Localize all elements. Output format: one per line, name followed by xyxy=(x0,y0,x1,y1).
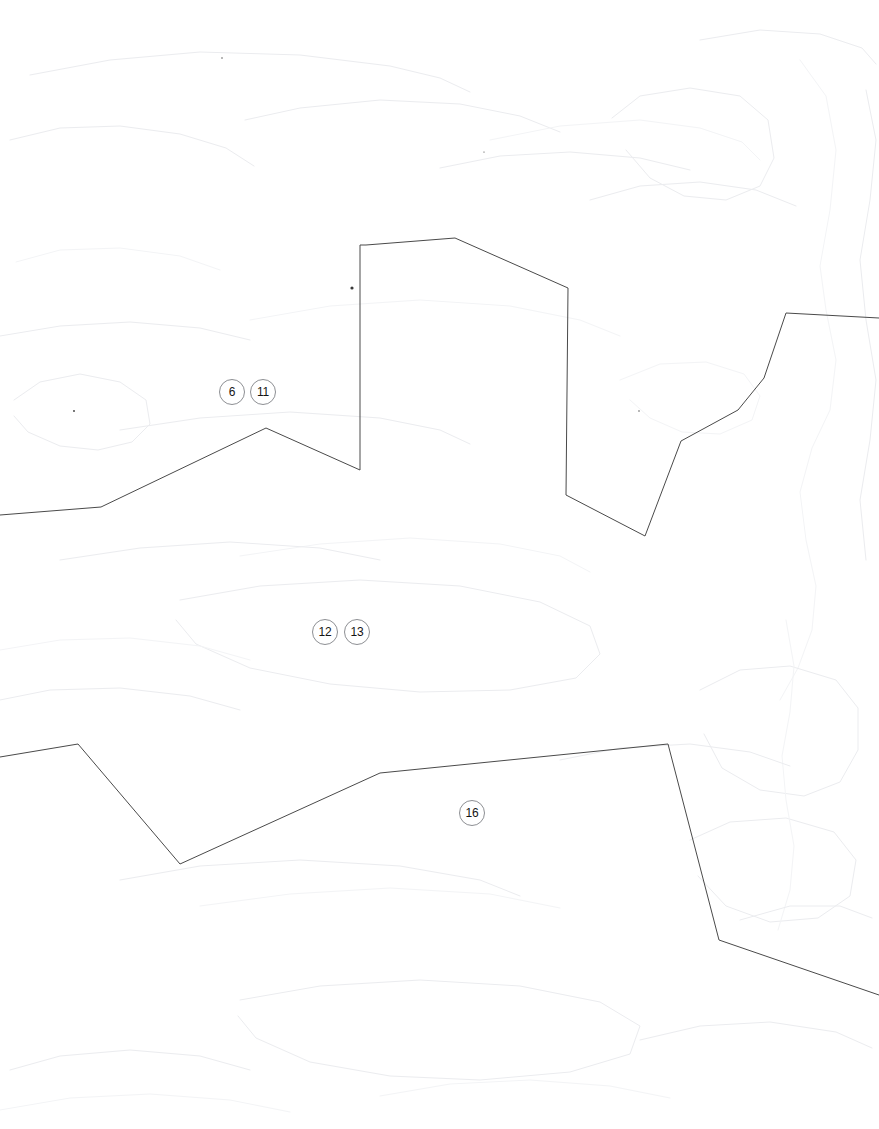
map-marker-label: 12 xyxy=(319,626,332,638)
contour-upper-mid-a xyxy=(440,152,690,170)
contour-upper-right-blob xyxy=(612,88,774,200)
map-marker-label: 11 xyxy=(257,386,269,398)
map-canvas xyxy=(0,0,879,1129)
map-marker-badge-11[interactable]: 11 xyxy=(250,379,276,405)
contour-lower-mid xyxy=(120,860,520,896)
contour-sweep-b xyxy=(0,322,250,340)
contour-lower-right-c xyxy=(560,744,790,766)
ink-speck-mid xyxy=(483,151,484,152)
map-marker-label: 16 xyxy=(466,807,479,819)
contour-right-tall xyxy=(780,60,836,700)
contour-top-left xyxy=(30,52,470,92)
ink-speck-main xyxy=(350,286,353,289)
contour-midleft-b xyxy=(16,248,220,270)
contour-lower-left-a xyxy=(0,638,250,660)
ink-speck-group xyxy=(73,57,640,412)
map-marker-badge-12[interactable]: 12 xyxy=(312,619,338,645)
contour-right-edge xyxy=(860,90,876,560)
ink-speck-upper xyxy=(221,57,222,58)
contour-mid-a xyxy=(120,412,470,444)
contour-right-lower-blob xyxy=(700,666,858,796)
ink-speck-left xyxy=(73,410,75,412)
contour-lower-mid-b xyxy=(200,888,560,908)
contour-mid-right-b xyxy=(590,182,796,206)
contour-sweep-a xyxy=(250,300,620,336)
contour-right-bottom xyxy=(640,1022,872,1048)
map-page: 611121316 xyxy=(0,0,879,1129)
map-marker-badge-16[interactable]: 16 xyxy=(459,800,485,826)
contour-mid-c xyxy=(60,542,380,560)
upper-boundary-line xyxy=(0,238,879,536)
contour-bottom-left xyxy=(10,1050,250,1070)
contour-midleft-a xyxy=(10,126,254,166)
contour-mid-right-a xyxy=(620,362,760,434)
map-marker-label: 13 xyxy=(351,626,364,638)
contour-lower-left-b xyxy=(0,688,240,710)
contour-top-mid xyxy=(245,100,560,132)
boundary-group xyxy=(0,238,879,995)
contour-bottom-left-b xyxy=(0,1094,290,1112)
contour-mid-b xyxy=(240,538,590,572)
contour-bottom-blob xyxy=(238,980,640,1080)
contour-center-blob xyxy=(176,580,600,692)
background-contour-group xyxy=(0,30,876,1112)
map-marker-label: 6 xyxy=(229,386,235,398)
map-marker-badge-13[interactable]: 13 xyxy=(344,619,370,645)
contour-top-right-b xyxy=(700,30,876,64)
map-marker-badge-6[interactable]: 6 xyxy=(219,379,245,405)
contour-tail-a xyxy=(380,1080,670,1098)
ink-speck-right xyxy=(638,410,639,411)
contour-blob-left xyxy=(14,374,150,450)
lower-boundary-line xyxy=(0,744,879,995)
